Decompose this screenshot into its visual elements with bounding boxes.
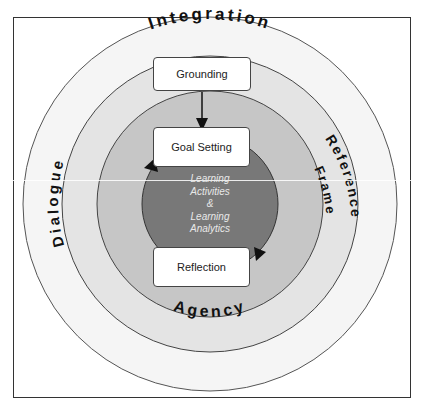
grounding-box: Grounding	[153, 57, 251, 91]
center-line: Activities	[160, 186, 260, 199]
reflection-box: Reflection	[153, 247, 250, 287]
center-line: &	[160, 198, 260, 211]
center-line: Analytics	[160, 223, 260, 236]
center-line: Learning	[160, 211, 260, 224]
goal-setting-box: Goal Setting	[153, 127, 250, 167]
center-label: Learning Activities & Learning Analytics	[160, 173, 260, 236]
center-line: Learning	[160, 173, 260, 186]
